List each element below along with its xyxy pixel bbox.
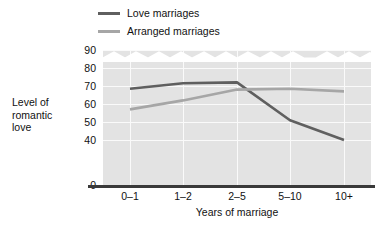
y-tick-label-90: 90 bbox=[70, 45, 96, 56]
x-tick-label-5-10: 5–10 bbox=[263, 190, 317, 202]
legend-swatch-love-marriages bbox=[98, 12, 120, 15]
x-axis-title: Years of marriage bbox=[103, 206, 371, 218]
x-tick-label-2-5: 2–5 bbox=[210, 190, 264, 202]
axis-break-zigzag bbox=[103, 50, 371, 62]
y-axis-title-line-1: Level of bbox=[12, 96, 74, 109]
legend-label-love-marriages: Love marriages bbox=[127, 8, 199, 19]
series-line-arranged-marriages bbox=[130, 89, 344, 110]
y-axis-title-line-2: romantic bbox=[12, 109, 74, 122]
y-tick-label-80: 80 bbox=[70, 63, 96, 74]
legend-swatch-arranged-marriages bbox=[98, 30, 120, 33]
plot-area bbox=[103, 50, 371, 185]
y-axis-title-line-3: love bbox=[12, 121, 74, 134]
x-tick-label-1-2: 1–2 bbox=[156, 190, 210, 202]
y-tick-label-60: 60 bbox=[70, 99, 96, 110]
x-tick-label-0-1: 0–1 bbox=[103, 190, 157, 202]
legend-label-arranged-marriages: Arranged marriages bbox=[127, 26, 220, 37]
y-axis-title: Level of romantic love bbox=[12, 96, 74, 134]
chart-container: Love marriages Arranged marriages Level … bbox=[0, 0, 388, 233]
y-tick-label-40: 40 bbox=[70, 135, 96, 146]
legend-item-love-marriages: Love marriages bbox=[98, 6, 220, 21]
y-tick-label-70: 70 bbox=[70, 81, 96, 92]
x-axis-baseline bbox=[88, 185, 375, 188]
legend-item-arranged-marriages: Arranged marriages bbox=[98, 24, 220, 39]
x-tick-label-10plus: 10+ bbox=[317, 190, 371, 202]
y-tick-label-50: 50 bbox=[70, 117, 96, 128]
series-lines bbox=[103, 50, 371, 185]
chart-legend: Love marriages Arranged marriages bbox=[98, 6, 220, 42]
